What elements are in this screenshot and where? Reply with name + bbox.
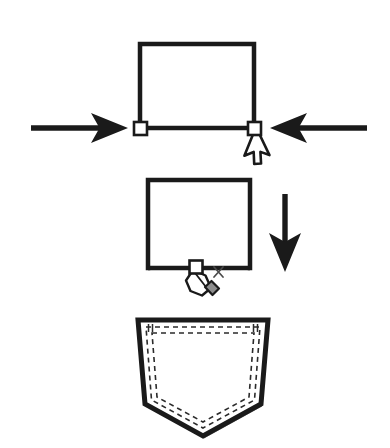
- arrow-proceed-down-shaft: [282, 194, 287, 245]
- handle-bottom-right[interactable]: [248, 122, 261, 135]
- pocket-construction-diagram: Pocket shaping instructional diagram: [0, 0, 390, 448]
- arrow-push-right-shaft: [295, 125, 367, 131]
- handle-bottom-left[interactable]: [134, 122, 147, 135]
- diagram-canvas: [0, 0, 390, 448]
- handle-bottom-center[interactable]: [190, 261, 203, 274]
- arrow-push-left-shaft: [31, 125, 103, 131]
